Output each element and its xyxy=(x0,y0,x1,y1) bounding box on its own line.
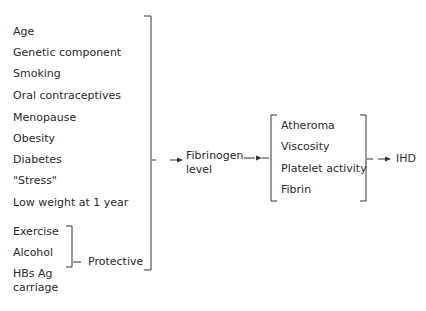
risk-factor-diabetes: Diabetes xyxy=(13,153,62,166)
risk-factor-smoking: Smoking xyxy=(13,67,61,80)
risk-factor-low-weight: Low weight at 1 year xyxy=(13,196,128,209)
mechanism-platelet-activity: Platelet activity xyxy=(281,162,367,175)
mechanism-fibrin: Fibrin xyxy=(281,183,311,196)
risk-factor-menopause: Menopause xyxy=(13,111,76,124)
protective-alcohol: Alcohol xyxy=(13,246,53,259)
risk-factor-obesity: Obesity xyxy=(13,132,55,145)
mechanism-atheroma: Atheroma xyxy=(281,119,335,132)
protective-exercise: Exercise xyxy=(13,225,59,238)
risk-factor-age: Age xyxy=(13,25,34,38)
risk-factor-oral-contraceptives: Oral contraceptives xyxy=(13,89,121,102)
protective-hbs-ag: HBs Ag xyxy=(13,267,53,280)
risk-factor-genetic: Genetic component xyxy=(13,46,121,59)
fibrinogen-label: Fibrinogen xyxy=(186,149,244,162)
mechanism-viscosity: Viscosity xyxy=(281,140,329,153)
risk-factor-stress: "Stress" xyxy=(13,174,57,187)
fibrinogen-level-label: level xyxy=(186,163,212,176)
protective-label: Protective xyxy=(88,255,143,268)
protective-carriage: carriage xyxy=(13,281,58,294)
outcome-ihd: IHD xyxy=(396,152,416,165)
